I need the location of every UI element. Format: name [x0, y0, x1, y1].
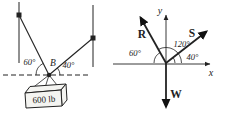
- angle-40-arc: [58, 68, 61, 75]
- vector-R: [141, 18, 167, 64]
- angle-60-arc-fbd: [154, 53, 160, 63]
- vector-S-label: S: [189, 27, 195, 39]
- crate: 600 lb: [25, 84, 67, 108]
- angle-60-label-fbd: 60°: [129, 48, 142, 58]
- physics-figure: 600 lb 60° B 40° y x R S W 60° 120° 40°: [0, 0, 225, 118]
- vector-W-label: W: [170, 88, 182, 100]
- point-B-dot: [47, 73, 51, 77]
- y-axis-label: y: [157, 5, 163, 16]
- load-diagram: 600 lb 60° B 40°: [3, 2, 96, 108]
- vector-R-label: R: [138, 28, 147, 40]
- angle-60-label: 60°: [24, 57, 37, 67]
- anchor-left-square: [17, 13, 22, 18]
- x-axis-label: x: [208, 67, 214, 78]
- angle-40-label: 40°: [63, 60, 76, 70]
- angle-40-label-fbd: 40°: [187, 52, 200, 62]
- angle-120-label: 120°: [173, 39, 190, 49]
- figure-canvas: 600 lb 60° B 40° y x R S W 60° 120° 40°: [0, 0, 225, 118]
- point-B-label: B: [50, 58, 56, 68]
- angle-60-arc: [36, 63, 43, 75]
- weight-label: 600 lb: [32, 94, 56, 106]
- anchor-right-square: [91, 36, 96, 41]
- force-diagram: y x R S W 60° 120° 40°: [113, 5, 214, 107]
